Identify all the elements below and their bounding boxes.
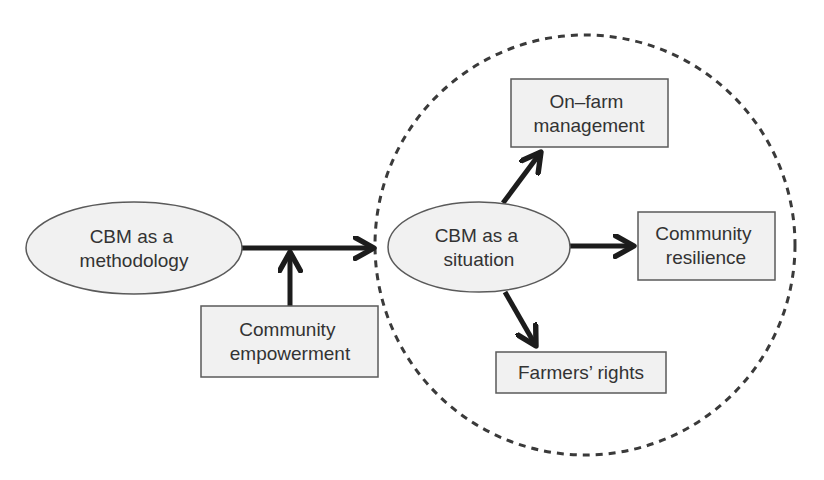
situation-ellipse [388,202,570,292]
resilience-label-line2: resilience [666,247,746,268]
node-resilience: Community resilience [638,212,775,280]
empowerment-label-line1: Community [239,319,336,340]
node-methodology: CBM as a methodology [26,202,242,294]
node-onfarm: On–farm management [511,79,668,147]
situation-label-line2: situation [444,249,515,270]
node-situation: CBM as a situation [388,202,570,292]
resilience-label-line1: Community [655,223,752,244]
onfarm-label-line2: management [534,115,646,136]
rights-label: Farmers’ rights [518,362,644,383]
node-rights: Farmers’ rights [496,352,666,393]
node-empowerment: Community empowerment [201,306,378,377]
methodology-label-line1: CBM as a [90,226,174,247]
empowerment-box [201,306,378,377]
empowerment-label-line2: empowerment [230,343,351,364]
cbm-diagram: CBM as a methodology Community empowerme… [0,0,824,480]
situation-label-line1: CBM as a [435,225,519,246]
methodology-label-line2: methodology [80,250,189,271]
arrow-situation-to-rights [505,292,536,346]
onfarm-label-line1: On–farm [549,91,623,112]
methodology-ellipse [26,202,242,294]
onfarm-box [511,79,668,147]
arrow-situation-to-onfarm [503,152,541,203]
